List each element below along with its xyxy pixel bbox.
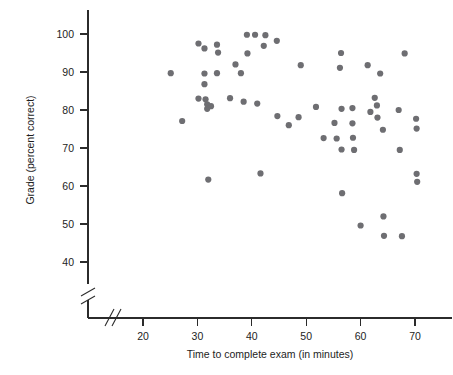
data-point <box>313 104 319 110</box>
data-point <box>205 176 211 182</box>
x-axis-tick-labels: 203040506070 <box>137 330 421 342</box>
y-axis: 405060708090100 <box>56 10 95 318</box>
data-point <box>274 38 280 44</box>
data-point <box>349 120 355 126</box>
data-point <box>214 70 220 76</box>
y-axis-ticks <box>80 34 88 262</box>
y-axis-break-icon <box>81 288 95 318</box>
scatter-plot-canvas: 405060708090100 203040506070 Time to com… <box>0 0 453 375</box>
data-point <box>372 95 378 101</box>
data-point <box>367 109 373 115</box>
data-point <box>365 62 371 68</box>
data-point <box>321 135 327 141</box>
data-point <box>374 102 380 108</box>
data-point <box>241 99 247 105</box>
data-point <box>244 32 250 38</box>
data-point <box>274 113 280 119</box>
data-point <box>168 70 174 76</box>
data-point <box>295 114 301 120</box>
data-point <box>227 95 233 101</box>
y-axis-tick-labels: 405060708090100 <box>56 28 74 268</box>
data-point <box>380 127 386 133</box>
y-axis-tick-label: 40 <box>62 256 74 268</box>
data-point <box>397 147 403 153</box>
data-point <box>338 106 344 112</box>
x-axis-ticks <box>143 318 415 326</box>
data-point <box>337 65 343 71</box>
x-axis: 203040506070 <box>88 309 452 342</box>
data-point <box>338 146 344 152</box>
y-axis-tick-label: 50 <box>62 218 74 230</box>
data-point <box>298 62 304 68</box>
x-axis-tick-label: 60 <box>355 330 367 342</box>
data-point <box>201 45 207 51</box>
data-point <box>338 50 344 56</box>
data-point <box>349 105 355 111</box>
data-point <box>350 135 356 141</box>
data-point <box>396 107 402 113</box>
data-point <box>413 116 419 122</box>
x-axis-tick-label: 30 <box>192 330 204 342</box>
data-point <box>201 70 207 76</box>
data-point <box>402 50 408 56</box>
data-point <box>261 43 267 49</box>
data-point <box>377 70 383 76</box>
x-axis-tick-label: 40 <box>246 330 258 342</box>
y-axis-tick-label: 90 <box>62 66 74 78</box>
x-axis-title: Time to complete exam (in minutes) <box>187 348 354 360</box>
data-point <box>414 171 420 177</box>
data-point <box>374 115 380 121</box>
data-point <box>254 100 260 106</box>
data-point <box>334 135 340 141</box>
data-point <box>339 190 345 196</box>
x-axis-tick-label: 70 <box>409 330 421 342</box>
data-point <box>195 40 201 46</box>
data-point <box>286 122 292 128</box>
data-point <box>358 222 364 228</box>
data-point-series <box>168 32 421 240</box>
scatter-plot-figure: 405060708090100 203040506070 Time to com… <box>0 0 453 375</box>
data-point <box>179 118 185 124</box>
data-point <box>238 70 244 76</box>
y-axis-tick-label: 80 <box>62 104 74 116</box>
data-point <box>201 81 207 87</box>
data-point <box>331 120 337 126</box>
y-axis-tick-label: 70 <box>62 142 74 154</box>
data-point <box>414 179 420 185</box>
y-axis-tick-label: 60 <box>62 180 74 192</box>
data-point <box>380 213 386 219</box>
data-point <box>244 50 250 56</box>
data-point <box>252 32 258 38</box>
x-axis-tick-label: 50 <box>300 330 312 342</box>
data-point <box>195 96 201 102</box>
data-point <box>381 233 387 239</box>
data-point <box>215 50 221 56</box>
data-point <box>399 233 405 239</box>
data-point <box>414 126 420 132</box>
y-axis-tick-label: 100 <box>56 28 74 40</box>
data-point <box>351 147 357 153</box>
data-point <box>257 170 263 176</box>
data-point <box>214 42 220 48</box>
data-point <box>232 61 238 67</box>
data-point <box>262 32 268 38</box>
y-axis-title: Grade (percent correct) <box>24 95 36 204</box>
data-point <box>208 103 214 109</box>
x-axis-tick-label: 20 <box>137 330 149 342</box>
